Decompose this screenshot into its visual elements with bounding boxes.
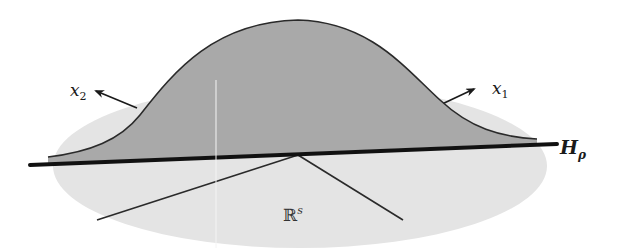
x1-axis-label: x1	[492, 80, 509, 100]
x1-base: x	[492, 78, 502, 98]
hyperplane-subscript: ρ	[578, 148, 586, 162]
x2-axis-label: x2	[70, 82, 87, 102]
x1-subscript: 1	[502, 88, 509, 101]
x2-subscript: 2	[80, 90, 87, 103]
x1-axis-arrow	[440, 89, 474, 105]
gaussian-bell-surface	[48, 20, 537, 163]
space-base: ℝ	[283, 205, 297, 225]
hyperplane-base: H	[560, 136, 578, 158]
x2-base: x	[70, 80, 80, 100]
gaussian-hyperplane-diagram	[0, 0, 625, 250]
x2-axis-arrow	[96, 91, 137, 108]
space-label: ℝs	[283, 205, 303, 224]
space-superscript: s	[297, 204, 303, 217]
hyperplane-label: Hρ	[560, 138, 586, 161]
